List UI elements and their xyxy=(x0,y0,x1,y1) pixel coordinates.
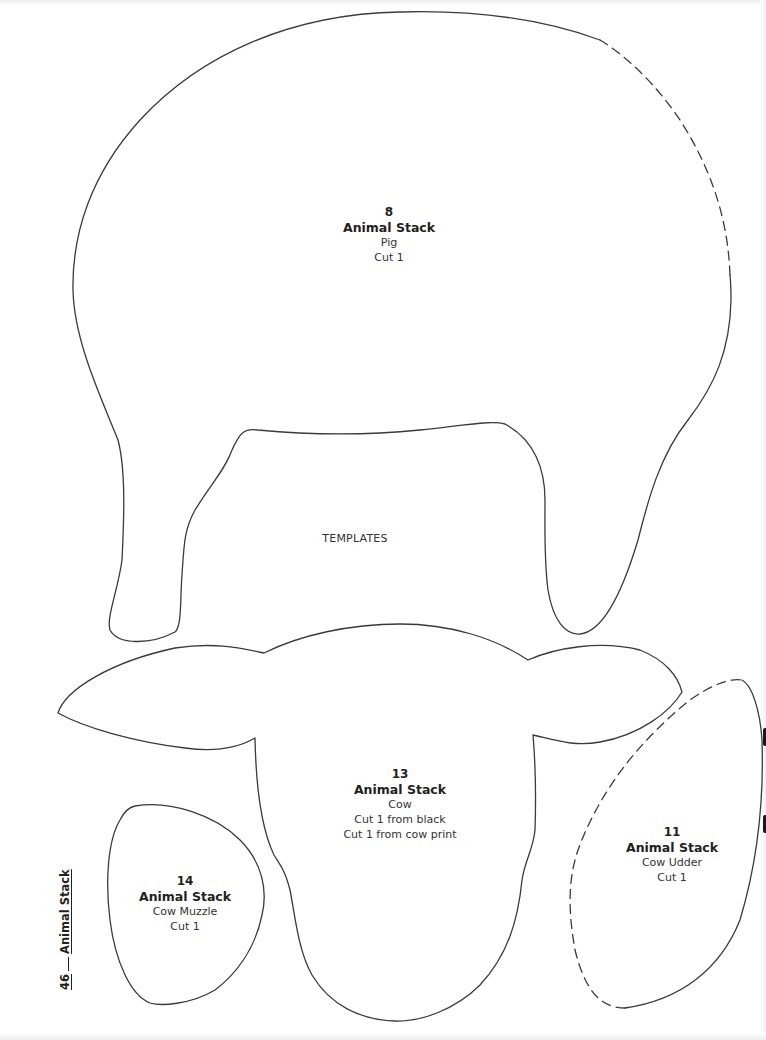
page-footer: 46 Animal Stack xyxy=(58,869,72,990)
template-number: 8 xyxy=(343,205,435,220)
cow-head-template-label: 13 Animal Stack Cow Cut 1 from black Cut… xyxy=(343,767,456,842)
pig-template-outline xyxy=(73,12,731,642)
cow-udder-template-label: 11 Animal Stack Cow Udder Cut 1 xyxy=(626,825,718,885)
section-title: Animal Stack xyxy=(58,869,72,954)
template-title: Animal Stack xyxy=(343,220,435,235)
cow-muzzle-template-label: 14 Animal Stack Cow Muzzle Cut 1 xyxy=(139,874,231,934)
template-cut-instruction: Cut 1 from cow print xyxy=(343,827,456,842)
template-cut-instruction: Cut 1 xyxy=(626,870,718,885)
template-name: Pig xyxy=(343,235,435,250)
template-number: 14 xyxy=(139,874,231,889)
template-name: Cow xyxy=(343,797,456,812)
template-cut-instruction: Cut 1 from black xyxy=(343,812,456,827)
template-cut-instruction: Cut 1 xyxy=(343,250,435,265)
pig-template-dashed-edge xyxy=(600,40,730,275)
template-title: Animal Stack xyxy=(139,889,231,904)
template-number: 11 xyxy=(626,825,718,840)
template-name: Cow Muzzle xyxy=(139,904,231,919)
pig-template-label: 8 Animal Stack Pig Cut 1 xyxy=(343,205,435,265)
template-title: Animal Stack xyxy=(343,782,456,797)
templates-heading: TEMPLATES xyxy=(322,532,387,545)
template-number: 13 xyxy=(343,767,456,782)
template-name: Cow Udder xyxy=(626,855,718,870)
template-title: Animal Stack xyxy=(626,840,718,855)
footer-rule xyxy=(67,957,69,971)
page-number: 46 xyxy=(58,974,72,990)
template-cut-instruction: Cut 1 xyxy=(139,919,231,934)
